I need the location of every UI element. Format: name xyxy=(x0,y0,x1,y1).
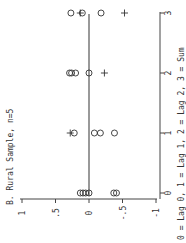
data-points xyxy=(67,10,128,197)
value-tick-label: -1 xyxy=(152,208,161,218)
plus-marker xyxy=(121,10,128,17)
value-tick-label: 1 xyxy=(18,210,27,215)
plus-marker xyxy=(101,70,108,77)
circle-marker xyxy=(91,130,97,136)
circle-marker xyxy=(73,70,79,76)
x-axis-label: 0 = Lag 0, 1 = Lag 1, 2 = Lag 2, 3 = Sum xyxy=(177,47,186,240)
category-tick-label: 3 xyxy=(164,10,173,15)
category-tick-label: 0 xyxy=(164,190,173,195)
category-ticks: 0123 xyxy=(160,10,173,195)
value-ticks: 1.50-.5-1 xyxy=(18,199,161,220)
category-tick-label: 1 xyxy=(164,130,173,135)
circle-marker xyxy=(111,130,117,136)
plus-marker xyxy=(77,10,84,17)
value-tick-label: 0 xyxy=(85,210,94,215)
circle-marker xyxy=(97,130,103,136)
scatter-chart: B. Rural Sample, n=5 0 = Lag 0, 1 = Lag … xyxy=(0,0,186,243)
circle-marker xyxy=(68,10,74,16)
value-tick-label: -.5 xyxy=(119,206,128,221)
chart-title: B. Rural Sample, n=5 xyxy=(6,108,15,205)
circle-marker xyxy=(98,10,104,16)
value-tick-label: .5 xyxy=(52,208,61,218)
category-tick-label: 2 xyxy=(164,70,173,75)
